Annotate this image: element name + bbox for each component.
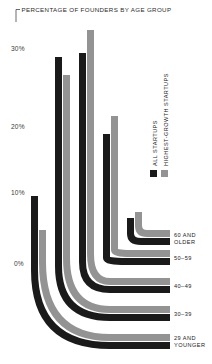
title-leader-line: [16, 10, 20, 23]
bar-60-and-older-highest-growth: [139, 212, 171, 234]
category-label-40-49: 40–49: [174, 283, 192, 289]
bar-group-29-and-younger: [35, 196, 171, 346]
legend-label-all-startups: ALL STARTUPS: [152, 120, 158, 166]
category-label-30-39: 30–39: [174, 311, 192, 317]
legend-swatch-highest-growth-startups: [161, 170, 168, 177]
y-tick-0: 0%: [14, 260, 24, 267]
chart-legend: ALL STARTUPS HIGHEST-GROWTH STARTUPS: [150, 73, 169, 177]
legend-label-highest-growth-startups: HIGHEST-GROWTH STARTUPS: [163, 73, 169, 166]
y-tick-10: 10%: [11, 189, 25, 196]
category-label-60-and-older-line1: 60 AND: [174, 232, 196, 238]
y-axis-tick-labels: 30% 20% 10% 0%: [11, 45, 25, 267]
bar-29-and-younger-all-startups: [35, 196, 171, 346]
founders-age-group-curved-bar-chart: PERCENTAGE OF FOUNDERS BY AGE GROUP 30% …: [0, 0, 212, 364]
category-label-29-and-younger-line1: 29 AND: [174, 335, 196, 341]
bar-group-60-and-older: [131, 212, 171, 242]
y-tick-20: 20%: [11, 123, 25, 130]
category-label-29-and-younger-line2: YOUNGER: [174, 342, 205, 348]
chart-title-group: PERCENTAGE OF FOUNDERS BY AGE GROUP: [16, 6, 171, 22]
legend-swatch-all-startups: [150, 170, 157, 177]
category-label-50-59: 50–59: [174, 255, 192, 261]
category-label-60-and-older-line2: OLDER: [174, 239, 196, 245]
page-title: PERCENTAGE OF FOUNDERS BY AGE GROUP: [22, 6, 172, 13]
y-tick-30: 30%: [11, 45, 25, 52]
chart-container: PERCENTAGE OF FOUNDERS BY AGE GROUP 30% …: [0, 0, 212, 364]
category-labels: 60 AND OLDER 50–59 40–49 30–39 29 AND YO…: [174, 232, 205, 348]
